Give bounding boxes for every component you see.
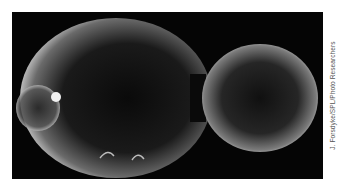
photo-credit: J. Forsdyke/SPL/Photo Researchers — [326, 12, 338, 179]
yeast-cell-image — [12, 12, 323, 179]
bud-cell — [202, 44, 318, 152]
scar-bright-dot — [51, 92, 61, 102]
micrograph-photo — [12, 12, 323, 179]
photo-credit-text: J. Forsdyke/SPL/Photo Researchers — [329, 41, 336, 149]
bud-scar — [16, 85, 60, 131]
